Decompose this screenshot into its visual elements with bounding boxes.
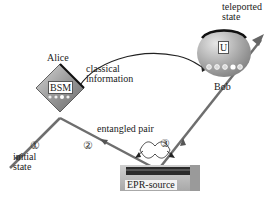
epr-source-label: EPR-source: [125, 180, 177, 190]
entangled-pair-label: entangled pair: [97, 124, 154, 134]
channel-2-marker: ②: [83, 140, 93, 151]
diagram-graphics: [0, 0, 273, 204]
teleported-state-line2: state: [222, 12, 240, 22]
alice-label: Alice: [47, 53, 69, 63]
bob-label: Bob: [214, 82, 231, 92]
classical-label-line2: information: [86, 74, 133, 84]
u-label: U: [218, 41, 229, 54]
channel-3-marker: ③: [160, 138, 170, 149]
channel-1-marker: ①: [30, 140, 40, 151]
bsm-label: BSM: [48, 81, 73, 94]
teleportation-diagram: Alice BSM classical information U Bob te…: [0, 0, 273, 204]
initial-state-line2: state: [13, 162, 31, 172]
